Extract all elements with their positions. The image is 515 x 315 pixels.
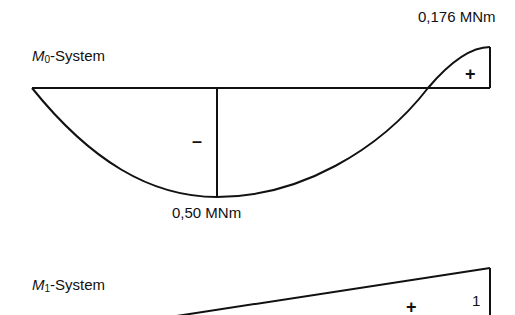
m1-system-title: M1-System	[32, 277, 105, 294]
m1-positive-sign: +	[406, 298, 417, 315]
m1-end-value: 1	[472, 293, 480, 308]
m1-title-symbol: M	[32, 276, 45, 293]
m0-positive-sign: +	[465, 65, 476, 83]
m0-moment-curve	[32, 47, 490, 197]
m0-negative-sign: –	[192, 132, 202, 150]
m1-title-text: -System	[50, 276, 105, 293]
moment-diagram-drawing	[0, 0, 515, 315]
m1-moment-line	[170, 268, 490, 315]
